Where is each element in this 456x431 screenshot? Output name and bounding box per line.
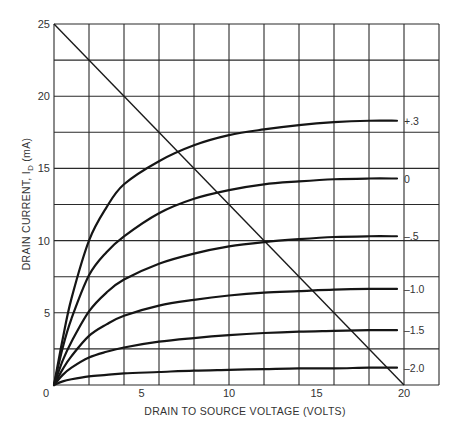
y-axis-title-main: DRAIN CURRENT, I [20,171,32,270]
curve-vgs-4 [54,330,397,385]
y-tick-label: 10 [38,235,50,247]
curve-label: 0 [404,173,410,185]
curve-vgs-2 [54,236,397,385]
curve-labels: +.30–.5–1.0–1.5–2.0 [404,115,425,374]
y-tick-label: 5 [44,307,50,319]
y-tick-label: 20 [38,90,50,102]
curve-label: –1.5 [404,324,425,336]
x-tick-label: 20 [398,387,410,399]
curve-label: –2.0 [404,362,425,374]
curve-vgs-5 [54,368,397,385]
curve-label: +.3 [404,115,419,127]
x-tick-label: 5 [138,387,144,399]
x-axis-ticks: 05101520 [43,387,410,399]
y-axis-title: DRAIN CURRENT, ID (mA) [20,138,35,271]
x-axis-title: DRAIN TO SOURCE VOLTAGE (VOLTS) [144,405,345,417]
curve-label: –.5 [404,230,419,242]
x-tick-label: 15 [310,387,322,399]
y-tick-label: 25 [38,18,50,30]
x-tick-label: 10 [223,387,235,399]
y-tick-label: 15 [38,162,50,174]
curves [54,121,397,385]
x-tick-label: 0 [43,387,49,399]
y-axis-ticks: 510152025 [38,18,50,319]
y-axis-title-unit: (mA) [20,138,32,165]
drain-characteristics-chart: +.30–.5–1.0–1.5–2.0 05101520 510152025 D… [0,0,456,431]
curve-label: –1.0 [404,283,425,295]
